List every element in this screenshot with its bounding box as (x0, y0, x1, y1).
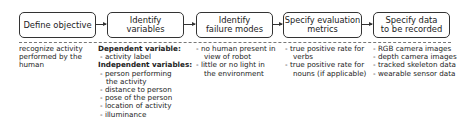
step-specify-evaluation-metrics: Specify evaluation metrics (283, 12, 362, 38)
objective-details: recognize activity performed by the huma… (19, 45, 83, 70)
divider-line (19, 42, 451, 43)
arrow-icon (362, 24, 372, 25)
detail-text: human (19, 61, 83, 69)
detail-text: - wearable sensor data (373, 70, 457, 78)
arrow-icon (184, 24, 195, 25)
detail-text: the environment (196, 70, 276, 78)
step-define-objective: Define objective (19, 12, 96, 38)
failure-modes-details: - no human present in view of robot - li… (196, 45, 276, 78)
detail-text: nouns (if applicable) (285, 70, 366, 78)
data-details: - RGB camera images - depth camera image… (373, 45, 457, 78)
metrics-details: - true positive rate for verbs - true po… (285, 45, 366, 78)
step-specify-data: Specify data to be recorded (373, 12, 450, 38)
step-identify-failure-modes: Identify failure modes (196, 12, 273, 38)
variables-details: Dependent variable: - activity label Ind… (98, 45, 192, 119)
arrow-icon (273, 24, 282, 25)
step-identify-variables: Identify variables (107, 12, 184, 38)
detail-text: - illuminance (98, 111, 192, 119)
arrow-icon (96, 24, 106, 25)
